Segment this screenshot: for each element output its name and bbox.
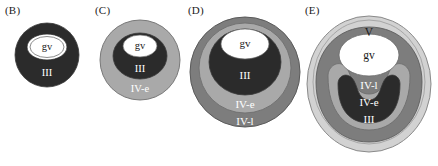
panel-c: (C) gv III IV-e — [90, 0, 190, 130]
panel-e: (E) V gv IV-l IV-e III — [300, 0, 438, 166]
panel-c-label-iii: III — [135, 63, 146, 74]
panel-b-label-iii: III — [42, 67, 53, 78]
panel-d-label-iii: III — [240, 69, 251, 81]
panel-b-label-gv: gv — [42, 41, 53, 52]
figure-panels-b-through-e: (B) gv III (C) gv III IV-e (D) — [0, 0, 438, 166]
panel-d: (D) gv III IV-e IV-l — [183, 0, 308, 155]
panel-c-label-gv: gv — [135, 40, 146, 51]
panel-b-diagram: gv III — [0, 10, 95, 120]
panel-b: (B) gv III — [0, 0, 95, 120]
panel-c-diagram: gv III IV-e — [90, 10, 190, 130]
panel-d-label-gv: gv — [240, 37, 252, 49]
panel-d-label-iv-l: IV-l — [236, 115, 253, 127]
panel-e-label-iv-l: IV-l — [360, 79, 377, 91]
panel-e-label-iv-e: IV-e — [359, 96, 378, 108]
panel-e-diagram: V gv IV-l IV-e III — [300, 10, 438, 166]
panel-e-label-iii: III — [364, 113, 375, 125]
panel-d-diagram: gv III IV-e IV-l — [183, 10, 308, 155]
panel-e-label-gv: gv — [363, 49, 375, 62]
panel-e-label-v: V — [365, 26, 374, 38]
panel-c-label-iv-e: IV-e — [131, 83, 150, 94]
panel-d-label-iv-e: IV-e — [235, 98, 254, 110]
